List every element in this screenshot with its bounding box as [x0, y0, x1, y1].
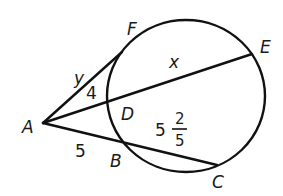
measure-label-y: y: [73, 68, 85, 88]
point-label-D: D: [121, 104, 134, 124]
mixed-number-whole: 5: [155, 120, 166, 140]
measure-label-AB: 5: [75, 141, 86, 161]
fraction-numerator: 2: [175, 110, 185, 128]
secant-segment-AC: [43, 123, 217, 165]
point-label-F: F: [127, 19, 137, 39]
measure-label-AD: 4: [86, 83, 97, 103]
fraction-denominator: 5: [175, 132, 185, 150]
point-label-E: E: [260, 37, 271, 57]
measure-label-x: x: [168, 52, 180, 72]
point-label-C: C: [212, 172, 224, 192]
secant-segment-AE: [43, 54, 252, 123]
mixed-number-BC: 5 2 5: [155, 110, 187, 150]
circle: [107, 20, 265, 172]
point-label-B: B: [110, 151, 122, 171]
geometry-diagram: A F E D B C y 4 x 5 5 2 5: [0, 0, 283, 196]
point-label-A: A: [21, 117, 34, 137]
